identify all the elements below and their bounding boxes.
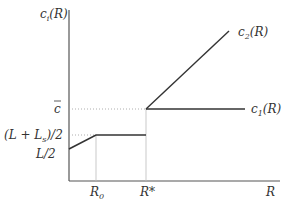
lls-tick-label: (L + Ls)/2 [4, 128, 63, 144]
cbar-tick-label: c [54, 101, 61, 116]
rstar-tick-label: R* [139, 185, 155, 199]
c2-line [146, 31, 229, 109]
x-axis-label: R [265, 185, 275, 199]
svg-text:c: c [54, 102, 61, 116]
c1-lower-segment [69, 135, 146, 149]
c2-label: c2(R) [238, 25, 269, 41]
r0-tick-label: R0 [89, 185, 104, 201]
cost-function-diagram: ci(R) c (L + Ls)/2 L/2 R0 R* R c1(R) c2(… [0, 0, 292, 209]
l-half-tick-label: L/2 [35, 147, 56, 161]
y-axis-label: ci(R) [40, 7, 68, 23]
c1-label: c1(R) [251, 102, 282, 118]
